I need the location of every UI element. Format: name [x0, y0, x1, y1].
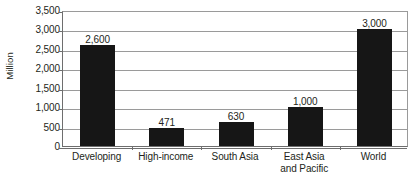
- bar-chart: Million 3,5003,0002,5002,0001,5001,00050…: [0, 0, 416, 194]
- bar-value-label: 1,000: [271, 96, 339, 107]
- x-axis-category-label: South Asia: [200, 151, 269, 163]
- bar[interactable]: [80, 45, 115, 146]
- y-axis-tick-label: 3,500: [14, 6, 60, 16]
- bar[interactable]: [288, 107, 323, 146]
- bar[interactable]: [357, 29, 392, 146]
- y-axis-tick-label: 2,000: [14, 64, 60, 74]
- y-axis-tick-label: 1,000: [14, 103, 60, 113]
- y-axis-tick-label: 500: [14, 123, 60, 133]
- x-axis-tick-mark: [271, 146, 272, 150]
- bar-value-label: 2,600: [64, 34, 132, 45]
- bar-value-label: 471: [133, 117, 201, 128]
- x-axis-tick-mark: [340, 146, 341, 150]
- plot-area: 2,6004716301,0003,000: [62, 11, 408, 147]
- x-axis-category-label: High-income: [131, 151, 200, 163]
- x-axis-category-label: East Asiaand Pacific: [270, 151, 339, 174]
- x-axis-category-label: World: [339, 151, 408, 163]
- y-axis-tick-mark: [59, 148, 63, 149]
- bar[interactable]: [149, 128, 184, 146]
- y-axis-tick-label: 2,500: [14, 45, 60, 55]
- x-axis-tick-mark: [132, 146, 133, 150]
- y-axis-tick-label: 1,500: [14, 84, 60, 94]
- y-axis-tick-label: 0: [14, 142, 60, 152]
- gridline: [63, 148, 407, 149]
- y-axis-tick-label: 3,000: [14, 25, 60, 35]
- bar-value-label: 630: [202, 111, 270, 122]
- bar-value-label: 3,000: [340, 18, 408, 29]
- x-axis-category-label: Developing: [62, 151, 131, 163]
- bar-series: 2,6004716301,0003,000: [63, 12, 407, 146]
- bar[interactable]: [219, 122, 254, 146]
- x-axis-category-labels: DevelopingHigh-incomeSouth AsiaEast Asia…: [62, 151, 408, 194]
- y-axis-tick-labels: 3,5003,0002,5002,0001,5001,0005000: [14, 0, 60, 194]
- x-axis-tick-mark: [201, 146, 202, 150]
